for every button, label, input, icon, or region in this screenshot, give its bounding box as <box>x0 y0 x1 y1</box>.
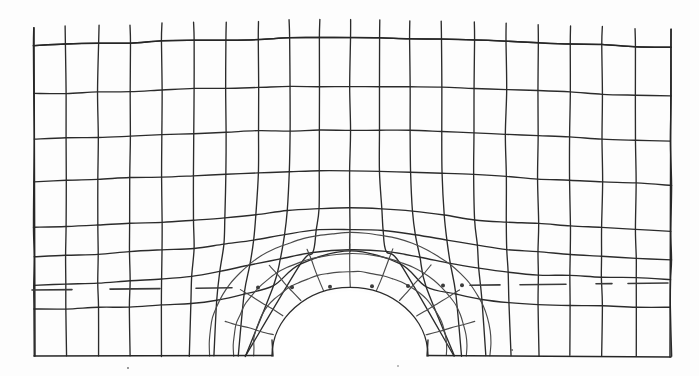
centerline-dot <box>370 284 374 288</box>
mesh-vertical-line <box>569 26 570 355</box>
centerline-dot <box>406 284 410 288</box>
mesh-spoke-line <box>307 249 323 290</box>
bottom-boundary-right <box>428 356 671 358</box>
mesh-vertical-line <box>98 25 100 356</box>
mesh-spoke-line <box>426 321 475 334</box>
mesh-vertical-line <box>161 23 162 357</box>
mesh-spoke-line <box>350 244 351 288</box>
centerline-dot <box>441 284 445 288</box>
paper-speck <box>511 349 513 351</box>
mesh-vertical-line <box>129 25 130 356</box>
mesh-spoke-line <box>225 321 273 334</box>
mesh-vertical-line <box>214 22 226 356</box>
centerline-dot <box>328 285 332 289</box>
mesh-horizontal-line <box>34 86 671 95</box>
hole-left-tail <box>272 340 273 356</box>
centerline-dot <box>256 286 260 290</box>
left-boundary <box>34 28 35 356</box>
mesh-vertical-line <box>65 26 66 356</box>
bottom-boundary-left <box>34 356 272 357</box>
mesh-vertical-line <box>350 20 351 252</box>
centerline-dash <box>628 283 668 284</box>
mesh-vertical-line <box>601 26 602 356</box>
mesh-vertical-line <box>189 22 194 356</box>
centerline-dot <box>460 283 464 287</box>
mesh-spoke-line <box>377 249 393 291</box>
paper-speck <box>397 365 399 367</box>
mesh-vertical-line <box>474 22 486 356</box>
centerline-dot <box>290 285 294 289</box>
centerline-dash <box>520 284 566 285</box>
mesh-vertical-line <box>441 21 461 356</box>
hole-interior <box>272 291 428 360</box>
right-boundary <box>670 29 671 357</box>
paper-speck <box>127 367 129 369</box>
mesh-vertical-line <box>238 22 258 357</box>
top-boundary <box>33 37 671 47</box>
mesh-vertical-line <box>538 25 539 357</box>
centerline-dash <box>110 289 160 290</box>
mesh-vertical-line <box>505 23 511 355</box>
mesh-diagram <box>0 0 699 376</box>
hole-right-tail <box>427 340 428 356</box>
mesh-horizontal-line <box>33 37 671 47</box>
figure-root <box>0 0 699 376</box>
